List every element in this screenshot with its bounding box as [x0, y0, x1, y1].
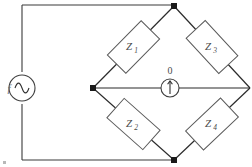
- node-left: [90, 85, 96, 91]
- impedance-z3[interactable]: [186, 21, 238, 74]
- impedance-z3-subscript: 3: [212, 46, 217, 55]
- null-detector-label: 0: [168, 65, 173, 76]
- null-detector[interactable]: 0: [161, 65, 179, 97]
- circuit-diagram: f Z 1 Z 3: [0, 0, 252, 167]
- impedance-z3-body: [186, 21, 238, 74]
- circuit-svg: f Z 1 Z 3: [0, 0, 252, 167]
- impedance-z3-label: Z: [205, 40, 212, 52]
- impedance-z2-label: Z: [126, 117, 133, 129]
- impedance-z1-label: Z: [126, 40, 133, 52]
- node-top: [171, 3, 177, 9]
- impedance-z2-subscript: 2: [134, 123, 138, 132]
- node-bottom: [171, 157, 177, 163]
- scan-speck: [3, 161, 6, 164]
- ac-source[interactable]: f: [7, 75, 35, 101]
- impedance-z4-label: Z: [205, 117, 212, 129]
- impedance-z4-subscript: 4: [213, 123, 217, 132]
- impedance-z1-subscript: 1: [134, 46, 138, 55]
